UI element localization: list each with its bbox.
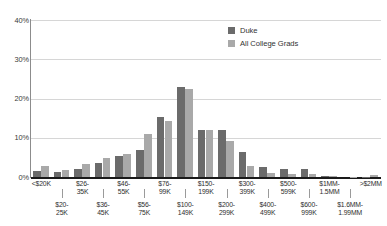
bar-all-college-grads — [247, 166, 255, 177]
bar-duke — [54, 172, 62, 177]
legend-label-all-college-grads: All College Grads — [240, 39, 298, 48]
x-axis-label: $1MM-1.5MM — [309, 180, 351, 195]
bar-group — [156, 20, 174, 177]
bar-group — [53, 20, 71, 177]
x-axis-label: $400-499K — [247, 201, 289, 216]
bar-all-college-grads — [144, 134, 152, 177]
bar-duke — [95, 163, 103, 177]
bar-all-college-grads — [185, 89, 193, 177]
bar-all-college-grads — [41, 166, 49, 177]
bar-group — [32, 20, 50, 177]
bar-duke — [177, 87, 185, 177]
x-axis-label: $36-45K — [82, 201, 124, 216]
x-axis-label: $76-99K — [144, 180, 186, 195]
bar-group — [73, 20, 91, 177]
x-axis-label: $200-299K — [206, 201, 248, 216]
income-distribution-bar-chart: 0%10%20%30%40% Duke All College Grads <$… — [0, 0, 387, 226]
x-axis-tick-labels: <$20K$20-25K$26-35K$36-45K$46-55K$56-75K… — [0, 179, 387, 226]
bar-group — [115, 20, 133, 177]
bar-duke — [115, 156, 123, 177]
bar-all-college-grads — [103, 158, 111, 177]
bar-duke — [198, 130, 206, 177]
y-axis-label-20: 20% — [1, 94, 29, 103]
bar-group — [362, 20, 380, 177]
bar-all-college-grads — [123, 154, 131, 177]
x-axis-label: >$2MM — [350, 180, 387, 188]
bar-all-college-grads — [206, 130, 214, 177]
x-axis-label: $1.6MM-1.99MM — [329, 201, 371, 216]
legend-swatch-duke — [228, 27, 235, 34]
bar-duke — [136, 150, 144, 177]
legend-label-duke: Duke — [240, 26, 258, 35]
bar-all-college-grads — [165, 121, 173, 177]
y-axis-label-30: 30% — [1, 55, 29, 64]
bar-all-college-grads — [309, 174, 317, 177]
legend-swatch-all-college-grads — [228, 40, 235, 47]
bar-all-college-grads — [82, 164, 90, 177]
legend-item-duke: Duke — [228, 26, 298, 35]
x-axis-label: <$20K — [20, 180, 62, 188]
y-axis-label-40: 40% — [1, 16, 29, 25]
bar-group — [341, 20, 359, 177]
bar-all-college-grads — [226, 141, 234, 177]
bar-all-college-grads — [329, 176, 337, 177]
x-axis-label: $46-55K — [103, 180, 145, 195]
x-axis-label: $500-599K — [267, 180, 309, 195]
bar-duke — [259, 167, 267, 177]
chart-legend: Duke All College Grads — [228, 26, 298, 52]
bar-duke — [74, 169, 82, 177]
bar-duke — [280, 169, 288, 177]
bar-all-college-grads — [370, 175, 378, 177]
bars-layer — [31, 20, 381, 177]
bar-duke — [321, 176, 329, 177]
bar-duke — [239, 152, 247, 177]
bar-group — [135, 20, 153, 177]
legend-item-all-college-grads: All College Grads — [228, 39, 298, 48]
bar-group — [94, 20, 112, 177]
bar-all-college-grads — [288, 174, 296, 177]
bar-group — [197, 20, 215, 177]
x-axis-label: $150-199K — [185, 180, 227, 195]
x-axis-tick — [350, 189, 351, 198]
x-axis-label: $100-149K — [164, 201, 206, 216]
bar-duke — [301, 169, 309, 177]
y-axis-label-10: 10% — [1, 133, 29, 142]
x-axis-label: $26-35K — [61, 180, 103, 195]
x-axis-label: $56-75K — [123, 201, 165, 216]
x-axis-label: $600-999K — [288, 201, 330, 216]
bar-group — [176, 20, 194, 177]
bar-duke — [218, 130, 226, 177]
x-axis-label: $20-25K — [41, 201, 83, 216]
bar-duke — [157, 117, 165, 177]
bar-group — [320, 20, 338, 177]
x-axis-label: $300-399K — [226, 180, 268, 195]
bar-all-college-grads — [267, 173, 275, 177]
bar-duke — [33, 171, 41, 177]
bar-group — [300, 20, 318, 177]
bar-all-college-grads — [62, 170, 70, 177]
